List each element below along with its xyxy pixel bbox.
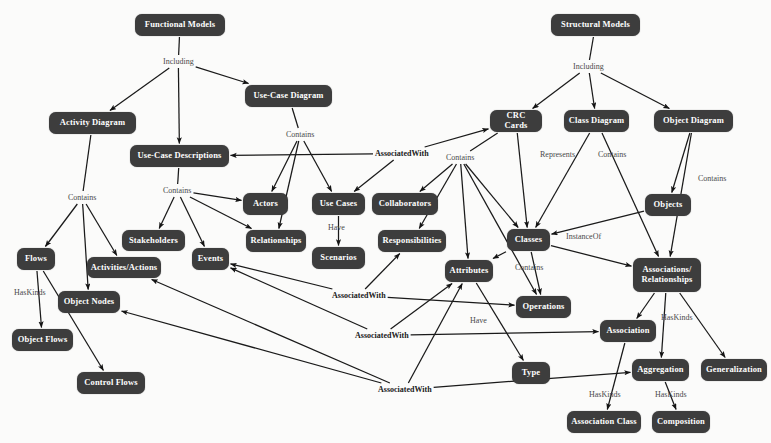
edge-lbl_including_right-to-object_diagram xyxy=(601,73,670,109)
edge-lbl_including_left-to-use_case_diagram xyxy=(196,67,249,84)
edge-lbl_assoc_1-to-use_cases xyxy=(354,160,394,192)
edge-lbl_assoc_2-to-operations xyxy=(388,297,515,305)
node-object_diagram[interactable]: Object Diagram xyxy=(654,110,733,132)
node-operations[interactable]: Operations xyxy=(516,296,571,318)
edge-crc_cards-to-lbl_contains_crc xyxy=(470,133,498,151)
edge-label-lbl_haskinds_assocls: HasKinds xyxy=(589,390,621,399)
edge-label-lbl_contains_ucd: Contains xyxy=(286,130,314,139)
edge-classes-to-associations_relationships xyxy=(551,246,632,266)
edge-lbl_contains_activity-to-flows xyxy=(45,204,77,247)
node-flows[interactable]: Flows xyxy=(17,248,55,270)
node-object_nodes[interactable]: Object Nodes xyxy=(58,291,120,313)
node-use_cases[interactable]: Use Cases xyxy=(312,193,365,215)
edge-associations_relationships-to-generalization xyxy=(680,293,725,358)
edge-lbl_including_right-to-class_diagram xyxy=(589,73,594,109)
edge-lbl_contains_ucd-to-actors xyxy=(272,141,297,192)
edge-label-lbl_assoc_4: AssociatedWith xyxy=(378,385,432,394)
node-object_flows[interactable]: Object Flows xyxy=(12,329,73,351)
edge-lbl_assoc_4-to-object_nodes xyxy=(122,311,382,383)
edge-class_diagram-to-classes xyxy=(536,133,590,228)
node-scenarios[interactable]: Scenarios xyxy=(312,247,365,269)
edge-lbl_assoc_3-to-association xyxy=(411,332,599,335)
edge-label-lbl_assoc_1: AssociatedWith xyxy=(375,149,429,158)
node-responsibilities[interactable]: Responsibilities xyxy=(378,230,446,252)
edge-label-lbl_contains_ucdesc: Contains xyxy=(163,186,191,195)
edge-classes-to-operations xyxy=(531,252,541,295)
edge-label-lbl_represents: Represents xyxy=(540,150,575,159)
edge-structural_models-to-lbl_including_right xyxy=(589,37,593,60)
edge-label-lbl_instanceof: InstanceOf xyxy=(566,232,601,241)
node-use_case_diagram[interactable]: Use-Case Diagram xyxy=(245,85,332,107)
edge-lbl_contains_ucd-to-use_cases xyxy=(304,141,332,192)
edge-objects-to-classes xyxy=(552,211,645,234)
edge-lbl_assoc_1-to-crc_cards xyxy=(425,129,489,147)
node-control_flows[interactable]: Control Flows xyxy=(77,372,145,394)
node-association[interactable]: Association xyxy=(600,320,656,342)
edge-label-lbl_haskinds_comp: HasKinds xyxy=(655,390,687,399)
edge-label-lbl_contains_crc: Contains xyxy=(446,153,474,162)
edge-label-lbl_including_right: Including xyxy=(573,62,604,71)
edge-associations_relationships-to-association xyxy=(637,293,655,319)
node-collaborators[interactable]: Collaborators xyxy=(372,193,438,215)
concept-map-canvas: Functional ModelsStructural ModelsUse-Ca… xyxy=(0,0,771,443)
node-association_class[interactable]: Association Class xyxy=(567,411,641,433)
edge-lbl_including_left-to-activity_diagram xyxy=(110,68,169,111)
node-objects[interactable]: Objects xyxy=(645,194,691,216)
node-relationships[interactable]: Relationships xyxy=(246,230,306,252)
edge-lbl_contains_crc-to-attributes xyxy=(461,164,468,259)
edge-lbl_assoc_2-to-responsibilities xyxy=(365,254,400,290)
node-composition[interactable]: Composition xyxy=(652,411,710,433)
edge-label-lbl_assoc_3: AssociatedWith xyxy=(355,331,409,340)
edge-label-lbl_haskinds_assoc: HasKinds xyxy=(661,313,693,322)
edge-lbl_contains_ucdesc-to-actors xyxy=(193,193,241,200)
node-associations_relationships[interactable]: Associations/Relationships xyxy=(633,258,701,292)
edge-lbl_contains_activity-to-object_nodes xyxy=(83,204,89,290)
edge-classes-to-attributes xyxy=(493,252,506,259)
edge-lbl_contains_crc-to-collaborators xyxy=(420,164,453,192)
edge-flows-to-control_flows xyxy=(43,271,103,371)
edge-label-lbl_have_attributes: Have xyxy=(470,316,487,325)
edge-lbl_contains_activity-to-activities_actions xyxy=(86,204,117,256)
edge-association-to-association_class xyxy=(607,343,625,410)
edge-crc_cards-to-classes xyxy=(517,133,527,228)
edge-label-lbl_haskinds_flows: HasKinds xyxy=(14,288,46,297)
node-crc_cards[interactable]: CRC Cards xyxy=(490,110,542,132)
node-attributes[interactable]: Attributes xyxy=(445,260,493,282)
edge-activity_diagram-to-lbl_contains_activity xyxy=(83,135,91,191)
node-structural_models[interactable]: Structural Models xyxy=(551,14,640,36)
edge-lbl_contains_ucd-to-relationships xyxy=(279,141,299,229)
edge-label-lbl_contains_class: Contains xyxy=(598,150,626,159)
edge-label-lbl_contains_objdia: Contains xyxy=(698,174,726,183)
node-activities_actions[interactable]: Activities/Actions xyxy=(87,257,161,278)
edge-associations_relationships-to-aggregation xyxy=(661,293,665,358)
edge-flows-to-object_flows xyxy=(37,271,42,328)
node-stakeholders[interactable]: Stakeholders xyxy=(122,230,185,251)
edge-label-lbl_assoc_2: AssociatedWith xyxy=(332,291,386,300)
edge-lbl_contains_ucdesc-to-stakeholders xyxy=(159,197,174,229)
edge-label-lbl_including_left: Including xyxy=(163,57,194,66)
edge-lbl_assoc_4-to-attributes xyxy=(408,284,462,384)
edge-lbl_contains_crc-to-classes xyxy=(466,164,519,228)
edge-use_case_descriptions-to-lbl_contains_ucdesc xyxy=(178,168,179,184)
edge-use_case_diagram-to-lbl_contains_ucd xyxy=(292,108,298,128)
node-events[interactable]: Events xyxy=(192,248,229,270)
edge-label-lbl_contains_activity: Contains xyxy=(68,193,96,202)
node-functional_models[interactable]: Functional Models xyxy=(135,14,225,36)
edge-functional_models-to-lbl_including_left xyxy=(179,37,180,55)
node-class_diagram[interactable]: Class Diagram xyxy=(564,110,629,132)
node-aggregation[interactable]: Aggregation xyxy=(632,359,689,381)
edge-label-lbl_have_usecases: Have xyxy=(328,223,345,232)
edge-object_diagram-to-objects xyxy=(672,133,690,193)
edge-lbl_assoc_1-to-use_case_descriptions xyxy=(231,154,374,156)
edge-lbl_including_right-to-crc_cards xyxy=(533,73,580,109)
edge-lbl_assoc_3-to-attributes xyxy=(391,284,452,330)
node-type[interactable]: Type xyxy=(512,362,550,384)
node-classes[interactable]: Classes xyxy=(507,229,550,251)
node-activity_diagram[interactable]: Activity Diagram xyxy=(49,112,136,134)
edge-lbl_including_left-to-use_case_descriptions xyxy=(178,68,179,144)
edge-label-lbl_contains_classes: Contains xyxy=(515,263,543,272)
node-actors[interactable]: Actors xyxy=(243,193,288,215)
node-generalization[interactable]: Generalization xyxy=(701,359,767,381)
node-use_case_descriptions[interactable]: Use-Case Descriptions xyxy=(130,145,229,167)
